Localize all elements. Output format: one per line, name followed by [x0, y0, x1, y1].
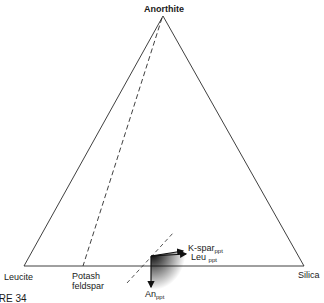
- figure-caption-fragment: IRE 34: [0, 294, 27, 303]
- leu-label-text: Leu: [191, 252, 206, 262]
- vector-label-leu: Leu ppt: [191, 252, 217, 265]
- leu-label-subscript: ppt: [209, 257, 217, 263]
- ternary-diagram-canvas: [0, 0, 324, 303]
- an-label-subscript: ppt: [156, 294, 164, 300]
- an-label-text: An: [145, 289, 156, 299]
- vertex-label-silica: Silica: [298, 270, 320, 280]
- join-label-feldspar: feldspar: [72, 281, 104, 291]
- vertex-label-leucite: Leucite: [4, 272, 33, 282]
- vector-label-an: Anppt: [145, 289, 164, 302]
- join-label-potash: Potash: [72, 271, 100, 281]
- anorthite-potash-feldspar-join: [83, 18, 162, 266]
- shaded-vector-region: [151, 251, 185, 290]
- ternary-triangle: [24, 16, 304, 266]
- vertex-label-anorthite: Anorthite: [144, 4, 184, 14]
